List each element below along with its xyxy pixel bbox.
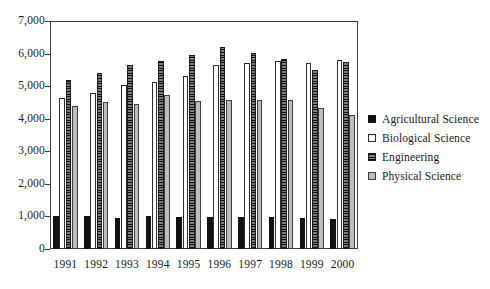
- y-tick-mark: [45, 249, 50, 250]
- y-tick-label: 6,000: [18, 48, 45, 60]
- bar-biological-1998: [275, 61, 281, 249]
- bar-agricultural-1997: [238, 217, 244, 249]
- y-tick-label: 4,000: [18, 113, 45, 125]
- bar-engineering-1996: [220, 47, 226, 249]
- legend-item-biological[interactable]: Biological Science: [368, 129, 488, 147]
- bar-agricultural-1992: [84, 216, 90, 249]
- bar-engineering-1997: [251, 53, 257, 249]
- bar-group: [142, 21, 173, 249]
- x-tick-label-1991: 1991: [53, 258, 77, 270]
- bar-engineering-1992: [97, 73, 103, 249]
- y-tick-label: 7,000: [18, 15, 45, 27]
- legend-swatch-engineering-icon: [368, 153, 376, 161]
- legend-label: Engineering: [382, 151, 439, 163]
- bar-engineering-1995: [189, 55, 195, 249]
- legend-label: Physical Science: [382, 170, 461, 182]
- bar-engineering-1991: [66, 80, 72, 249]
- bar-group: [112, 21, 143, 249]
- legend-label: Biological Science: [382, 132, 470, 144]
- bar-physical-1993: [134, 104, 140, 249]
- x-axis: 1991199219931994199519961997199819992000: [50, 252, 358, 282]
- legend-swatch-biological-icon: [368, 134, 376, 142]
- x-tick-label-1996: 1996: [207, 258, 231, 270]
- x-tick-label-1994: 1994: [146, 258, 170, 270]
- bar-biological-1997: [244, 63, 250, 249]
- x-tick-label-1998: 1998: [269, 258, 293, 270]
- bar-biological-1991: [59, 98, 65, 249]
- bar-engineering-2000: [343, 62, 349, 249]
- bar-agricultural-1999: [300, 218, 306, 249]
- bar-physical-2000: [349, 115, 355, 249]
- bar-biological-1993: [121, 85, 127, 249]
- bars-layer: [50, 21, 358, 249]
- bar-group: [296, 21, 327, 249]
- legend: Agricultural ScienceBiological ScienceEn…: [368, 110, 488, 186]
- bar-biological-1999: [306, 63, 312, 249]
- bar-biological-2000: [337, 60, 343, 249]
- bar-group: [266, 21, 297, 249]
- legend-item-engineering[interactable]: Engineering: [368, 148, 488, 166]
- legend-item-physical[interactable]: Physical Science: [368, 167, 488, 185]
- y-tick-label: 5,000: [18, 80, 45, 92]
- bar-agricultural-1998: [269, 217, 275, 249]
- bar-chart: 01,0002,0003,0004,0005,0006,0007,000 199…: [0, 0, 490, 289]
- bar-engineering-1994: [158, 61, 164, 249]
- x-tick-label-1999: 1999: [300, 258, 324, 270]
- bar-agricultural-2000: [330, 219, 336, 249]
- x-tick-label-1992: 1992: [84, 258, 108, 270]
- bar-physical-1992: [103, 102, 109, 249]
- bar-biological-1995: [183, 76, 189, 249]
- bar-group: [204, 21, 235, 249]
- bar-physical-1997: [257, 100, 263, 250]
- y-tick-label: 3,000: [18, 146, 45, 158]
- bar-group: [50, 21, 81, 249]
- bar-engineering-1998: [281, 59, 287, 249]
- bar-agricultural-1993: [115, 218, 121, 249]
- bar-agricultural-1994: [146, 216, 152, 249]
- bar-biological-1996: [213, 65, 219, 249]
- bar-agricultural-1996: [207, 217, 213, 249]
- bar-agricultural-1995: [176, 217, 182, 249]
- bar-engineering-1993: [127, 65, 133, 249]
- legend-swatch-physical-icon: [368, 172, 376, 180]
- bar-group: [81, 21, 112, 249]
- x-tick-label-1995: 1995: [177, 258, 201, 270]
- x-tick-label-2000: 2000: [331, 258, 355, 270]
- y-tick-label: 1,000: [18, 211, 45, 223]
- bar-group: [173, 21, 204, 249]
- bar-biological-1994: [152, 82, 158, 249]
- bar-physical-1996: [226, 100, 232, 249]
- bar-physical-1991: [72, 106, 78, 249]
- y-tick-label: 2,000: [18, 178, 45, 190]
- bar-physical-1998: [288, 100, 294, 249]
- legend-swatch-agricultural-icon: [368, 115, 376, 123]
- x-tick-label-1997: 1997: [238, 258, 262, 270]
- bar-engineering-1999: [312, 70, 318, 249]
- bar-group: [327, 21, 358, 249]
- bar-physical-1999: [318, 108, 324, 249]
- x-tick-label-1993: 1993: [115, 258, 139, 270]
- y-axis: 01,0002,0003,0004,0005,0006,0007,000: [0, 0, 50, 289]
- legend-label: Agricultural Science: [382, 113, 479, 125]
- bar-physical-1994: [164, 95, 170, 249]
- bar-biological-1992: [90, 93, 96, 249]
- bar-physical-1995: [195, 101, 201, 249]
- bar-agricultural-1991: [53, 216, 59, 249]
- bar-group: [235, 21, 266, 249]
- legend-item-agricultural[interactable]: Agricultural Science: [368, 110, 488, 128]
